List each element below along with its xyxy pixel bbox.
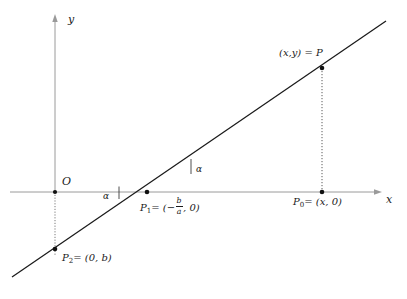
alpha-right-label: α [196,165,202,174]
point-P-dot [320,66,325,71]
point-P-label: (x,y) = P [279,48,323,58]
point-P1-dot [145,190,150,195]
point-P2-label: P2= (0, b) [62,253,112,265]
point-P1-label-eq: = (− [151,202,175,213]
point-P1-label-prefix: P [140,202,147,213]
x-axis-label: x [386,194,392,205]
y-axis-arrowhead [52,14,57,22]
fraction-numerator: b [176,197,183,205]
point-P2-label-rest: = (0, b) [73,252,111,263]
point-P1-label: P1= (−ba, 0) [140,197,200,215]
point-P1-fraction: ba [176,197,183,215]
point-P0-label-prefix: P [293,196,300,207]
point-P1-label-tail: , 0) [183,202,200,213]
y-axis-label: y [68,14,74,25]
alpha-left-label: α [103,192,109,201]
point-P2-dot [53,247,58,252]
x-axis-arrowhead [374,189,382,194]
point-P2-label-prefix: P [62,252,69,263]
point-P0-label-rest: = (x, 0) [304,196,342,207]
origin-dot [53,190,57,194]
line-graph-diagram: y x O (x,y) = P P0= (x, 0) P1= (−ba, 0) … [0,0,407,299]
fraction-denominator: a [176,208,183,216]
origin-label: O [62,176,71,187]
point-P0-dot [320,190,325,195]
graph-line [12,21,386,277]
point-P0-label: P0= (x, 0) [293,197,342,209]
